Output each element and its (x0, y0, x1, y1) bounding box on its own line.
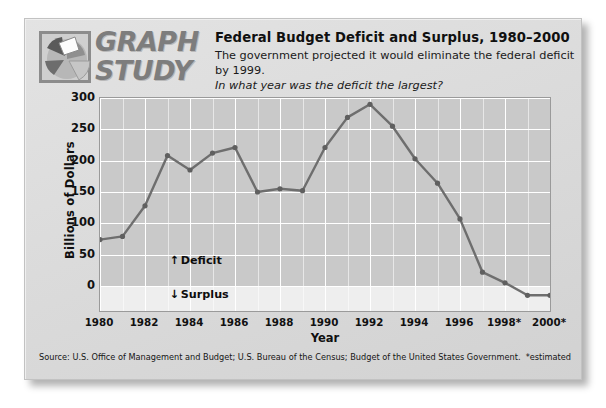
data-point-marker (367, 102, 372, 107)
x-tick-label: 1980 (76, 316, 122, 328)
data-point-marker (142, 203, 147, 208)
data-point-marker (435, 181, 440, 186)
data-point-marker (412, 156, 417, 161)
gridline-vertical (550, 98, 551, 311)
plot-region: ↑Deficit ↓Surplus (99, 97, 551, 312)
y-tick-label: 150 (43, 184, 95, 198)
title-question: In what year was the deficit the largest… (215, 78, 575, 93)
x-tick-label: 1982 (121, 316, 167, 328)
x-tick-label: 2000* (526, 316, 572, 328)
logo-word-line2: STUDY (95, 56, 207, 85)
card-footer: Source: U.S. Office of Management and Bu… (39, 352, 571, 368)
y-tick-label: 50 (43, 247, 95, 261)
data-point-marker (322, 145, 327, 150)
x-tick-label: 1986 (211, 316, 257, 328)
data-point-marker (277, 186, 282, 191)
y-tick-label: 250 (43, 121, 95, 135)
data-point-marker (165, 153, 170, 158)
data-point-marker (232, 145, 237, 150)
y-tick-label: 100 (43, 215, 95, 229)
data-point-marker (100, 237, 103, 242)
logo-word-line1: GRAPH (95, 27, 207, 56)
data-point-marker (345, 115, 350, 120)
data-point-marker (547, 293, 550, 298)
card-header: GRAPH STUDY Federal Budget Deficit and S… (39, 29, 569, 91)
y-tick-label: 300 (43, 90, 95, 104)
source-note: Source: U.S. Office of Management and Bu… (39, 352, 521, 362)
y-tick-label: 0 (43, 278, 95, 292)
x-axis-ticks: 1980198219841986198819901992199419961998… (99, 316, 551, 332)
x-tick-label: 1996 (436, 316, 482, 328)
data-point-marker (187, 167, 192, 172)
data-point-marker (390, 124, 395, 129)
page-title: Federal Budget Deficit and Surplus, 1980… (215, 29, 575, 46)
title-subtitle: The government projected it would elimin… (215, 48, 575, 78)
data-point-marker (480, 270, 485, 275)
data-point-marker (210, 151, 215, 156)
y-axis-ticks: 050100150200250300 (39, 97, 95, 312)
x-tick-label: 1994 (391, 316, 437, 328)
x-tick-label: 1984 (166, 316, 212, 328)
series-line (100, 104, 550, 295)
data-point-marker (502, 280, 507, 285)
data-point-marker (120, 234, 125, 239)
x-axis-label: Year (99, 331, 551, 345)
estimated-note: *estimated (526, 352, 571, 362)
data-point-marker (457, 216, 462, 221)
title-block: Federal Budget Deficit and Surplus, 1980… (215, 29, 575, 93)
x-tick-label: 1990 (301, 316, 347, 328)
x-tick-label: 1992 (346, 316, 392, 328)
pie-chart-logo-icon (35, 25, 99, 89)
chart-area: Billions of Dollars 050100150200250300 ↑… (39, 97, 569, 347)
logo-wordmark: GRAPH STUDY (95, 27, 207, 87)
x-tick-label: 1998* (481, 316, 527, 328)
graph-study-card: GRAPH STUDY Federal Budget Deficit and S… (24, 18, 582, 380)
data-point-marker (300, 188, 305, 193)
x-tick-label: 1988 (256, 316, 302, 328)
deficit-surplus-line-series (100, 98, 550, 311)
data-point-marker (525, 293, 530, 298)
y-tick-label: 200 (43, 153, 95, 167)
data-point-marker (255, 189, 260, 194)
screenshot-root: GRAPH STUDY Federal Budget Deficit and S… (0, 0, 606, 408)
